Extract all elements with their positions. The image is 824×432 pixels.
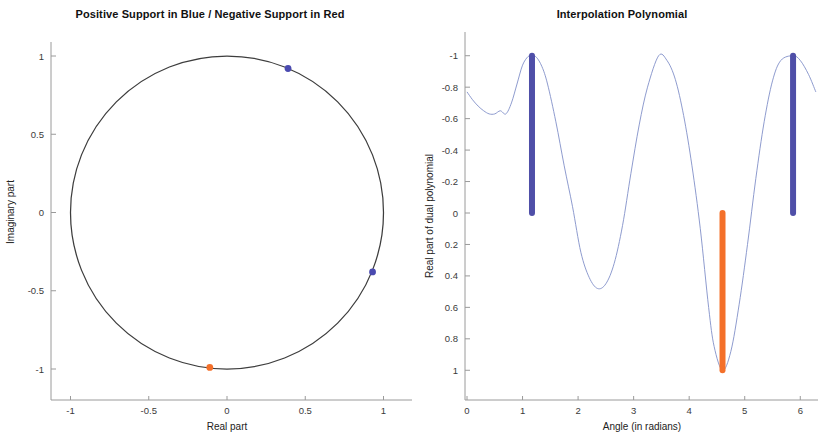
y-tick-label: 1: [453, 365, 458, 376]
y-tick-label: 0.6: [445, 302, 458, 313]
unit-circle-panel: Positive Support in Blue / Negative Supp…: [0, 0, 420, 432]
x-tick-label: 6: [798, 405, 803, 416]
x-tick-label: -0.5: [141, 405, 157, 416]
x-tick-label: 0: [224, 405, 229, 416]
x-tick-label: 1: [381, 405, 386, 416]
y-tick-label: -0.8: [442, 82, 458, 93]
y-tick-label: -1: [450, 50, 458, 61]
y-tick-label: -0.6: [442, 113, 458, 124]
y-axis-label: Imaginary part: [5, 180, 16, 244]
x-tick-label: 4: [687, 405, 692, 416]
unit-circle-curve: [71, 56, 384, 369]
negative-support-point: [206, 364, 213, 371]
y-tick-label: -0.2: [442, 176, 458, 187]
y-tick-label: -1: [36, 364, 44, 375]
interpolation-polynomial-plot: 012345610.80.60.40.20-0.2-0.4-0.6-0.8-1A…: [420, 0, 824, 432]
y-tick-label: 0.5: [31, 129, 44, 140]
y-tick-label: 0.4: [445, 270, 458, 281]
x-tick-label: 0: [464, 405, 469, 416]
y-tick-label: 0: [453, 208, 458, 219]
x-tick-label: 2: [575, 405, 580, 416]
y-tick-label: -0.4: [442, 145, 458, 156]
unit-circle-plot: -1-0.500.51-1-0.500.51Real partImaginary…: [0, 0, 420, 432]
x-tick-label: 3: [631, 405, 636, 416]
x-tick-label: 0.5: [299, 405, 312, 416]
y-tick-label: -0.5: [28, 285, 44, 296]
dual-polynomial-curve: [467, 54, 816, 370]
y-tick-label: 0: [39, 207, 44, 218]
x-tick-label: 1: [520, 405, 525, 416]
x-axis-label: Real part: [207, 421, 248, 432]
positive-support-point: [285, 65, 292, 72]
x-tick-label: 5: [742, 405, 747, 416]
x-tick-label: -1: [66, 405, 74, 416]
figure-canvas: Positive Support in Blue / Negative Supp…: [0, 0, 824, 432]
interpolation-polynomial-panel: Interpolation Polynomial 012345610.80.60…: [420, 0, 824, 432]
positive-support-point: [369, 269, 376, 276]
y-tick-label: 0.2: [445, 239, 458, 250]
y-tick-label: 0.8: [445, 333, 458, 344]
x-axis-label: Angle (in radians): [603, 421, 681, 432]
y-tick-label: 1: [39, 51, 44, 62]
y-axis-label: Real part of dual polynomial: [424, 154, 435, 278]
